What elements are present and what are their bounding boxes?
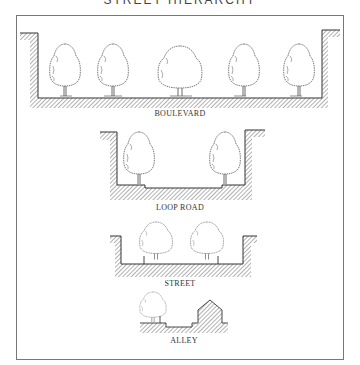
- tree-icon: [210, 132, 241, 184]
- street-sections-illustration: [0, 0, 360, 365]
- tree-icon: [158, 46, 202, 96]
- tree-icon: [140, 222, 173, 260]
- tree-icon: [50, 44, 81, 96]
- street-section: [110, 222, 257, 277]
- tree-icon: [98, 44, 129, 96]
- tree-icon: [229, 44, 260, 96]
- section-label-alley: ALLEY: [134, 336, 234, 345]
- section-label-street: STREET: [130, 279, 230, 288]
- section-label-boulevard: BOULEVARD: [130, 109, 230, 118]
- boulevard-section: [20, 30, 340, 108]
- tree-icon: [191, 222, 224, 260]
- loop-road-section: [100, 130, 265, 200]
- tree-icon: [140, 292, 166, 322]
- tree-icon: [284, 44, 315, 96]
- section-label-loop-road: LOOP ROAD: [130, 203, 230, 212]
- tree-icon: [124, 132, 155, 184]
- alley-section: [140, 292, 228, 333]
